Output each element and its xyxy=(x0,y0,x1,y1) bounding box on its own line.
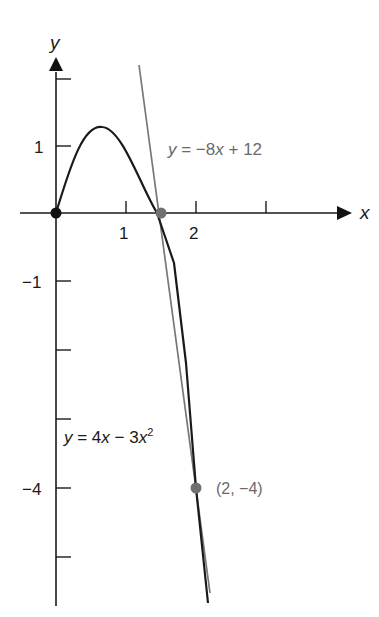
tick-label-x1: 1 xyxy=(119,224,128,243)
y-ticks xyxy=(56,79,71,557)
tangency-point xyxy=(191,483,202,494)
parabola-curve xyxy=(56,127,208,603)
tangency-point-label: (2, −4) xyxy=(216,480,263,497)
tangent-equation-label: y = −8x + 12 xyxy=(167,140,262,159)
curve-equation-label: y = 4x − 3x2 xyxy=(63,426,153,447)
tick-label-x2: 2 xyxy=(189,224,198,243)
origin-point xyxy=(51,208,62,219)
tick-label-y1: 1 xyxy=(34,138,43,157)
x-ticks xyxy=(126,201,266,213)
tick-label-ym4: −4 xyxy=(22,480,41,499)
chart-plot: y x 1 2 1 −1 −4 y = −8x + 12 y = 4x − 3x… xyxy=(0,0,379,617)
y-axis-label: y xyxy=(48,32,61,53)
x-axis-arrow-icon xyxy=(337,206,352,220)
x-intercept-point xyxy=(156,208,167,219)
y-axis-arrow-icon xyxy=(49,57,63,71)
tick-label-ym1: −1 xyxy=(22,273,41,292)
x-axis-label: x xyxy=(359,202,371,223)
